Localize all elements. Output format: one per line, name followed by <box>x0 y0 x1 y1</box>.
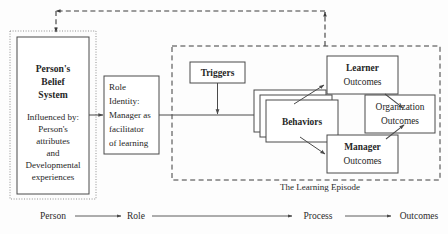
organization-outcomes-line-2: Outcomes <box>381 116 419 126</box>
persons-belief-system-body-line-4: and <box>47 148 60 158</box>
persons-belief-system-title-line-2: Belief <box>41 76 65 87</box>
diagram-root: Person's Belief System Influenced by: Pe… <box>0 0 448 234</box>
axis-stage-process: Process <box>303 211 332 221</box>
persons-belief-system-body-line-1: Influenced by: <box>27 112 79 122</box>
role-identity-line-4: facilitator <box>109 124 144 134</box>
role-identity-line-3: Manager as <box>109 110 151 120</box>
feedback-loop-group <box>56 11 325 46</box>
learner-outcomes-rect <box>327 56 398 94</box>
triggers-box[interactable]: Triggers <box>190 62 245 83</box>
axis-stage-role: Role <box>127 211 145 221</box>
persons-belief-system-title-line-3: System <box>38 89 67 100</box>
role-identity-box[interactable]: Role Identity: Manager as facilitator of… <box>104 76 159 154</box>
learner-outcomes-box[interactable]: Learner Outcomes <box>327 56 398 94</box>
persons-belief-system-body-line-5: Developmental <box>26 160 81 170</box>
organization-outcomes-line-1: Organization <box>376 102 425 112</box>
organization-outcomes-rect <box>365 95 435 133</box>
behaviors-box[interactable]: Behaviors <box>254 90 338 142</box>
manager-outcomes-line-1: Manager <box>344 142 380 152</box>
role-identity-line-2: Identity: <box>109 96 140 106</box>
diagram-canvas: Person's Belief System Influenced by: Pe… <box>0 0 448 234</box>
persons-belief-system-body-line-2: Person's <box>38 124 68 134</box>
persons-belief-system-box[interactable]: Person's Belief System Influenced by: Pe… <box>17 37 89 194</box>
process-axis: Person Role Process Outcomes <box>40 211 438 221</box>
manager-outcomes-box[interactable]: Manager Outcomes <box>327 135 398 173</box>
persons-belief-system-body-line-3: attributes <box>36 136 70 146</box>
persons-belief-system-title-line-1: Person's <box>36 63 71 74</box>
axis-stage-outcomes: Outcomes <box>400 211 439 221</box>
behaviors-label: Behaviors <box>282 117 322 127</box>
persons-belief-system-body-line-6: experiences <box>32 172 75 182</box>
learner-outcomes-line-1: Learner <box>346 63 379 73</box>
organization-outcomes-box[interactable]: Organization Outcomes <box>365 95 435 133</box>
manager-outcomes-rect <box>327 135 398 173</box>
manager-outcomes-line-2: Outcomes <box>343 156 381 166</box>
axis-stage-person: Person <box>40 211 66 221</box>
learning-episode-caption: The Learning Episode <box>280 182 360 192</box>
role-identity-line-1: Role <box>109 82 126 92</box>
role-identity-line-5: of learning <box>109 138 149 148</box>
triggers-label: Triggers <box>201 68 235 78</box>
learner-outcomes-line-2: Outcomes <box>343 77 381 87</box>
